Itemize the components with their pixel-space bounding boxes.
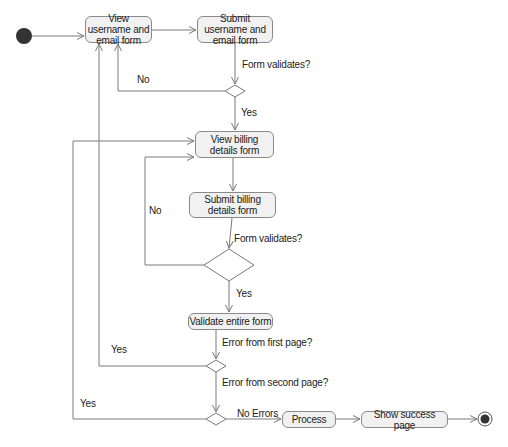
label-yes-2: Yes bbox=[236, 288, 252, 299]
node-show-success: Show success page bbox=[361, 411, 448, 428]
label-no-errors: No Errors bbox=[237, 408, 278, 419]
node-label: View billing details form bbox=[196, 134, 273, 156]
edge-submit-billing-to-decision2 bbox=[229, 218, 232, 248]
node-view-username: View username and email form bbox=[85, 16, 152, 43]
edge-decision4-yes bbox=[73, 141, 206, 419]
start-node bbox=[16, 28, 32, 44]
label-error-second-page: Error from second page? bbox=[222, 377, 328, 388]
label-yes-first: Yes bbox=[111, 344, 127, 355]
node-label: Validate entire form bbox=[190, 316, 272, 327]
node-submit-username: Submit username and email form bbox=[197, 16, 273, 43]
label-form-validates-2: Form validates? bbox=[234, 233, 302, 244]
node-validate-entire: Validate entire form bbox=[188, 313, 273, 330]
node-view-billing: View billing details form bbox=[195, 131, 274, 158]
node-label: Show success page bbox=[362, 409, 447, 431]
label-form-validates-1: Form validates? bbox=[242, 59, 310, 70]
node-label: Submit username and email form bbox=[198, 13, 272, 46]
node-process: Process bbox=[282, 411, 336, 428]
label-yes-1: Yes bbox=[241, 107, 257, 118]
label-no-1: No bbox=[137, 74, 149, 85]
node-label: Process bbox=[292, 414, 327, 425]
decision-1-diamond bbox=[225, 85, 245, 97]
decision-3-diamond bbox=[206, 360, 226, 372]
label-error-first-page: Error from first page? bbox=[222, 337, 312, 348]
decision-2-diamond bbox=[204, 249, 254, 281]
node-submit-billing: Submit billing details form bbox=[189, 192, 276, 218]
label-no-2: No bbox=[149, 205, 161, 216]
edge-decision1-no bbox=[118, 44, 225, 91]
end-node-core bbox=[481, 415, 490, 424]
node-label: Submit billing details form bbox=[190, 194, 275, 216]
decision-4-diamond bbox=[206, 413, 226, 425]
label-yes-second: Yes bbox=[80, 398, 96, 409]
node-label: View username and email form bbox=[86, 13, 151, 46]
